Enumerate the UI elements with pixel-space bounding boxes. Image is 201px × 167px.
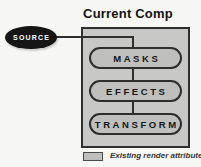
pipeline-node-effects: EFFECTS (89, 80, 182, 102)
pipeline-node-label: TRANSFORM (92, 119, 179, 130)
diagram-title: Current Comp (68, 6, 188, 21)
pipeline-node-masks: MASKS (89, 47, 182, 69)
legend-label: Existing render attributes (110, 151, 201, 160)
pipeline-node-transform: TRANSFORM (89, 113, 182, 135)
source-connector-horizontal (55, 36, 134, 38)
source-node: SOURCE (5, 26, 57, 49)
pipeline-node-label: EFFECTS (103, 86, 167, 97)
source-node-label: SOURCE (12, 34, 50, 41)
render-order-diagram: Current Comp SOURCE MASKS EFFECTS TRANSF… (0, 0, 201, 167)
pipeline-node-label: MASKS (111, 53, 161, 64)
legend-swatch (83, 152, 103, 161)
